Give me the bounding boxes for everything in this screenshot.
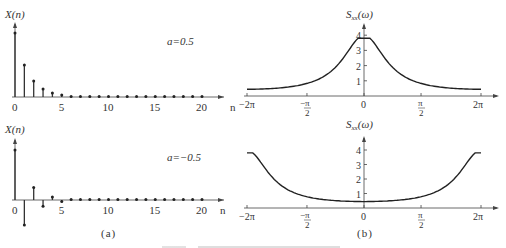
x-tick-label: π — [418, 98, 423, 108]
stem-marker — [23, 64, 26, 67]
y-tick-label: 3 — [356, 160, 361, 171]
y-tick-label: 1 — [356, 189, 361, 200]
stem-marker — [42, 88, 45, 91]
stem-marker — [191, 95, 194, 98]
y-tick-label: 1 — [356, 76, 361, 87]
y-tick-label: 2 — [356, 174, 361, 185]
x-tick-label: 2π — [473, 99, 483, 110]
stem-marker — [14, 32, 17, 35]
stem-marker — [79, 198, 82, 201]
stem-marker — [51, 195, 54, 198]
stem-marker — [201, 95, 204, 98]
stem-marker — [70, 198, 73, 201]
x-tick-label: π — [418, 210, 423, 220]
x-tick-label: 15 — [149, 101, 161, 113]
x-tick-label: 0 — [361, 99, 366, 110]
x-axis-arrow-icon — [218, 95, 224, 99]
x-axis-arrow-icon — [218, 198, 224, 202]
x-axis-label: n — [220, 204, 226, 216]
stem-marker — [126, 95, 129, 98]
x-tick-label: −2π — [239, 99, 255, 110]
stem-marker — [172, 95, 175, 98]
y-axis-label: X(n) — [4, 8, 25, 21]
tick-marks-and-labels: −2π−π20π22π1234 — [239, 145, 483, 230]
stem-marker — [88, 198, 91, 201]
stem-marker — [163, 198, 166, 201]
stem-marker — [42, 205, 45, 208]
y-axis-arrow-icon — [13, 138, 17, 144]
y-tick-label: 4 — [356, 145, 361, 156]
stem-marker — [32, 186, 35, 189]
x-tick-label: 2π — [473, 211, 483, 222]
stem-marker — [116, 95, 119, 98]
x-axis-label: n — [230, 101, 236, 113]
x-tick-label: −π — [300, 98, 310, 108]
stem-plot-bottom-left: X(n) n a=−0.5 05101520 — [4, 123, 226, 227]
x-tick-labels: 05101520 — [12, 204, 208, 216]
y-axis-arrow-icon — [362, 136, 366, 142]
x-tick-label-denominator: 2 — [419, 220, 424, 230]
stem-marker — [79, 95, 82, 98]
tick-marks-and-labels: −2π−π20π22π1234 — [239, 30, 483, 118]
y-axis-arrow-icon — [362, 23, 366, 29]
x-tick-label: 10 — [103, 101, 115, 113]
stem-marker — [154, 198, 157, 201]
stem-marker — [60, 94, 63, 97]
stem-marker — [60, 200, 63, 203]
x-tick-label: 15 — [149, 204, 161, 216]
stem-plot-top-left: X(n) n a=0.5 05101520 — [4, 8, 236, 113]
figure-canvas: X(n) n a=0.5 05101520 X(n) n a=−0.5 0510… — [0, 0, 506, 248]
stem-marker — [98, 95, 101, 98]
stem-marker — [182, 95, 185, 98]
stem-marker — [70, 95, 73, 98]
x-axis-arrow-icon — [493, 94, 499, 98]
x-tick-label-denominator: 2 — [305, 108, 310, 118]
x-tick-label: 0 — [12, 101, 18, 113]
y-tick-label: 2 — [356, 61, 361, 72]
x-tick-label: 10 — [103, 204, 115, 216]
x-tick-label-denominator: 2 — [419, 108, 424, 118]
x-tick-label-denominator: 2 — [305, 220, 310, 230]
stem-marker — [98, 198, 101, 201]
stem-marker — [32, 80, 35, 83]
x-tick-label: 0 — [12, 204, 18, 216]
y-axis-label: Sxx(ω) — [346, 8, 373, 22]
x-axis-arrow-icon — [493, 206, 499, 210]
annotation-a: a=0.5 — [167, 35, 194, 47]
x-tick-label: 20 — [196, 101, 208, 113]
stem-marker — [51, 92, 54, 95]
x-tick-label: 0 — [361, 211, 366, 222]
x-tick-label: −π — [300, 210, 310, 220]
x-tick-label: 20 — [196, 204, 208, 216]
y-axis-label: Sxx(ω) — [346, 118, 373, 132]
stem-marker — [23, 224, 26, 227]
stem-marker — [88, 95, 91, 98]
x-tick-label: 5 — [59, 101, 65, 113]
stem-marker — [191, 198, 194, 201]
psd-plot-bottom-right: Sxx(ω) −2π−π20π22π1234 — [239, 118, 499, 230]
x-tick-labels: 05101520 — [12, 101, 208, 113]
stem-marker — [144, 95, 147, 98]
stem-marker — [107, 95, 110, 98]
annotation-a: a=−0.5 — [167, 151, 202, 163]
stem-marker — [135, 198, 138, 201]
panel-label-a: (a) — [101, 227, 116, 239]
stem-marker — [126, 198, 129, 201]
y-axis-arrow-icon — [13, 22, 17, 28]
stem-marker — [107, 198, 110, 201]
figure-caption-clipped — [150, 243, 350, 248]
stem-marker — [144, 198, 147, 201]
stem-marker — [172, 198, 175, 201]
stem-marker — [116, 198, 119, 201]
stem-marker — [163, 95, 166, 98]
stem-marker — [182, 198, 185, 201]
stem-marker — [201, 198, 204, 201]
stem-marker — [154, 95, 157, 98]
y-tick-label: 3 — [356, 45, 361, 56]
x-tick-label: 5 — [59, 204, 65, 216]
stem-marker — [14, 149, 17, 152]
y-axis-label: X(n) — [4, 123, 25, 136]
panel-label-b: (b) — [357, 227, 373, 239]
stem-marker — [135, 95, 138, 98]
x-tick-label: −2π — [239, 211, 255, 222]
